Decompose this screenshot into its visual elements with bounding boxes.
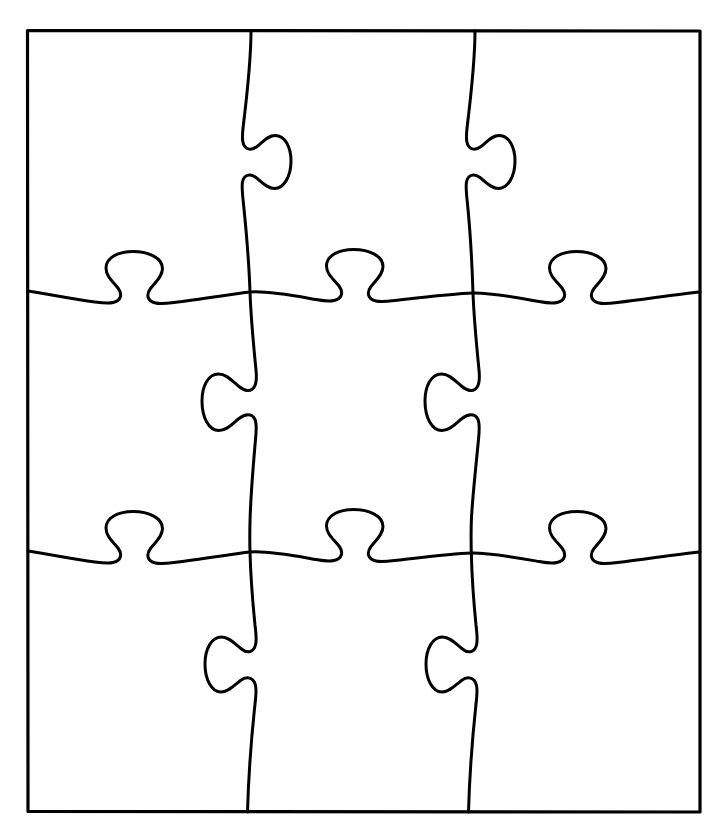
background-rect — [0, 0, 726, 837]
jigsaw-puzzle-diagram — [0, 0, 726, 837]
puzzle-canvas — [0, 0, 726, 837]
